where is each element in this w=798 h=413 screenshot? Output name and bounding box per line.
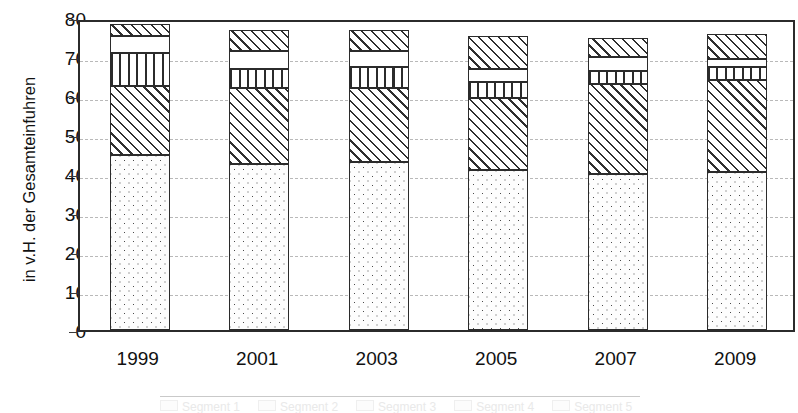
legend-item-2: Segment 2 [258,400,338,413]
bar-2001 [229,18,289,330]
bar-segment-1999-s5 [110,24,170,36]
bar-segment-2005-s3 [468,82,528,98]
bar-segment-2001-s2 [229,88,289,164]
bar-segment-2001-s5 [229,30,289,51]
legend-label-5: Segment 5 [574,400,632,413]
y-tick-mark-60 [69,98,78,99]
y-tick-mark-40 [69,176,78,177]
bar-segment-2003-s1 [349,162,409,330]
y-tick-mark-10 [69,293,78,294]
bar-segment-2001-s4 [229,51,289,69]
legend-swatch-2 [258,400,276,411]
bar-segment-2005-s2 [468,98,528,170]
legend-label-3: Segment 3 [378,400,436,413]
bar-segment-2009-s5 [707,34,767,59]
legend-label-1: Segment 1 [182,400,240,413]
bar-segment-2001-s3 [229,69,289,89]
bar-segment-2003-s5 [349,30,409,51]
bar-segment-2005-s1 [468,170,528,330]
bar-2005 [468,18,528,330]
bar-2009 [707,18,767,330]
x-tick-label-2007: 2007 [571,349,661,368]
gridline-20 [80,256,793,257]
chart-canvas: in v.H. der Gesamteinfuhren 010203040506… [0,0,798,413]
y-tick-mark-30 [69,215,78,216]
x-tick-label-2001: 2001 [212,349,302,368]
bar-segment-1999-s2 [110,86,170,154]
bar-segment-2007-s5 [588,38,648,58]
legend-swatch-4 [454,400,472,411]
bar-segment-2007-s2 [588,84,648,174]
bar-segment-2003-s3 [349,67,409,88]
legend: Segment 1Segment 2Segment 3Segment 4Segm… [160,400,640,413]
gridline-50 [80,139,793,140]
legend-swatch-5 [552,400,570,411]
gridline-10 [80,295,793,296]
y-tick-mark-80 [69,20,78,21]
legend-swatch-1 [160,400,178,411]
legend-item-4: Segment 4 [454,400,534,413]
legend-divider [160,396,640,397]
y-tick-mark-50 [69,137,78,138]
legend-item-1: Segment 1 [160,400,240,413]
bar-segment-2007-s3 [588,71,648,85]
bar-segment-1999-s4 [110,36,170,54]
bar-segment-2009-s1 [707,172,767,330]
bar-segment-2009-s3 [707,67,767,81]
bar-1999 [110,18,170,330]
bar-2007 [588,18,648,330]
gridline-70 [80,61,793,62]
bar-segment-1999-s3 [110,53,170,86]
legend-items: Segment 1Segment 2Segment 3Segment 4Segm… [160,400,640,413]
legend-item-5: Segment 5 [552,400,632,413]
bar-segment-2005-s4 [468,69,528,83]
gridline-60 [80,100,793,101]
legend-label-2: Segment 2 [280,400,338,413]
gridline-30 [80,217,793,218]
x-tick-label-2003: 2003 [332,349,422,368]
bar-segment-2009-s4 [707,59,767,67]
bar-segment-2007-s1 [588,174,648,330]
bar-segment-2003-s4 [349,51,409,67]
x-tick-label-2005: 2005 [451,349,541,368]
plot-area [78,20,795,332]
bar-segment-2007-s4 [588,57,648,71]
bar-segment-2009-s2 [707,80,767,172]
bar-segment-2003-s2 [349,88,409,162]
y-tick-mark-0 [69,332,78,333]
legend-item-3: Segment 3 [356,400,436,413]
bar-2003 [349,18,409,330]
x-tick-label-1999: 1999 [93,349,183,368]
legend-swatch-3 [356,400,374,411]
y-tick-mark-20 [69,254,78,255]
y-tick-mark-70 [69,59,78,60]
bar-segment-2001-s1 [229,164,289,330]
bar-segment-2005-s5 [468,36,528,69]
legend-label-4: Segment 4 [476,400,534,413]
bar-segment-1999-s1 [110,155,170,331]
x-tick-label-2009: 2009 [690,349,780,368]
gridline-40 [80,178,793,179]
